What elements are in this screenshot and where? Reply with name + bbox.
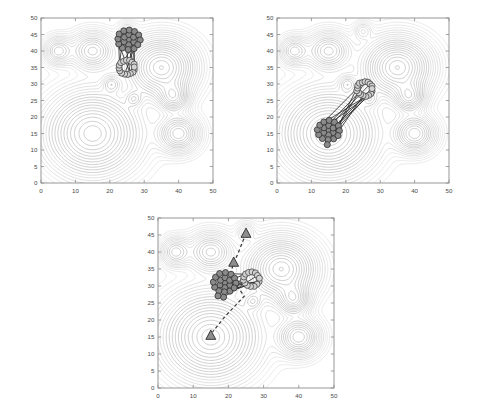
y-tick-label: 5 [270,163,274,170]
panel-top-left: 0102030405005101520253035404550 [14,8,224,208]
y-tick-label: 20 [31,113,38,120]
target-marker-bottom [206,330,216,339]
y-tick-label: 45 [148,231,155,238]
y-tick-label: 25 [267,97,274,104]
y-tick-label: 35 [31,64,38,71]
x-tick-label: 20 [106,187,113,194]
light-agents [116,57,137,77]
y-tick-label: 20 [267,113,274,120]
dark-agents [314,117,342,147]
x-tick-label: 0 [156,392,160,399]
y-tick-label: 0 [34,179,38,186]
y-tick-label: 20 [148,316,155,323]
panel-top-left-svg: 0102030405005101520253035404550 [14,8,224,208]
y-tick-label: 45 [31,31,38,38]
y-tick-label: 40 [31,47,38,54]
x-tick-label: 40 [175,187,182,194]
y-tick-label: 10 [267,146,274,153]
y-tick-label: 0 [151,384,155,391]
y-tick-label: 15 [267,130,274,137]
x-tick-label: 40 [295,392,302,399]
figure-root: 0102030405005101520253035404550 01020304… [0,0,478,418]
x-tick-label: 50 [331,392,338,399]
panel-top-right: 0102030405005101520253035404550 [250,8,460,208]
x-tick-label: 30 [377,187,384,194]
x-tick-label: 30 [141,187,148,194]
y-tick-label: 40 [267,47,274,54]
light-agents [354,79,375,100]
x-tick-label: 10 [190,392,197,399]
x-tick-label: 50 [446,187,453,194]
y-tick-label: 15 [148,333,155,340]
panel-bottom-center-svg: 0102030405005101520253035404550 [130,208,345,413]
x-tick-label: 10 [308,187,315,194]
x-tick-label: 40 [411,187,418,194]
y-tick-label: 5 [151,367,155,374]
x-tick-label: 20 [342,187,349,194]
y-tick-label: 25 [31,97,38,104]
y-tick-label: 10 [148,350,155,357]
y-tick-label: 50 [267,14,274,21]
y-tick-label: 30 [31,80,38,87]
panel-top-right-svg: 0102030405005101520253035404550 [250,8,460,208]
y-tick-label: 35 [267,64,274,71]
x-tick-label: 30 [260,392,267,399]
y-tick-label: 40 [148,248,155,255]
x-tick-label: 10 [72,187,79,194]
y-tick-label: 0 [270,179,274,186]
y-tick-label: 10 [31,146,38,153]
y-tick-label: 50 [31,14,38,21]
y-tick-label: 45 [267,31,274,38]
y-tick-label: 30 [148,282,155,289]
dark-agents [115,27,143,53]
y-tick-label: 35 [148,265,155,272]
y-tick-label: 50 [148,214,155,221]
y-tick-label: 30 [267,80,274,87]
y-tick-label: 5 [34,163,38,170]
y-tick-label: 25 [148,299,155,306]
panel-bottom-center: 0102030405005101520253035404550 [130,208,345,413]
x-tick-label: 0 [39,187,43,194]
x-tick-label: 20 [225,392,232,399]
contour-field [158,219,334,388]
agent-swarm [210,269,262,300]
x-tick-label: 0 [275,187,279,194]
y-tick-label: 15 [31,130,38,137]
x-tick-label: 50 [210,187,217,194]
